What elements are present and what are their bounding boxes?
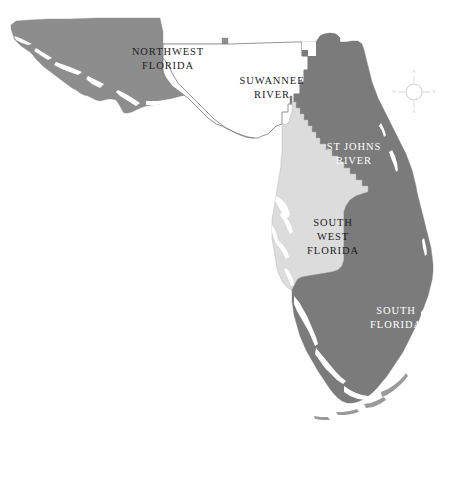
compass-rose: N S W E [392,69,436,114]
label-northwest-florida-line-2: FLORIDA [142,60,194,71]
key-west-tip [314,416,330,420]
label-suwannee-river-line-2: RIVER [254,89,290,100]
compass-label-west: W [392,89,397,94]
label-south-florida-line-1: SOUTH [376,305,416,316]
label-st-johns-river-line-1: ST JOHNS [327,141,382,152]
compass-label-east: E [433,89,436,94]
compass-label-north: N [412,69,416,74]
label-suwannee-river-line-1: SUWANNEE [240,75,305,86]
florida-map: NORTHWEST FLORIDA SUWANNEE RIVER ST JOHN… [0,0,463,477]
label-northwest-florida-line-1: NORTHWEST [132,46,204,57]
compass-label-south: S [413,109,416,114]
compass-ring [406,84,422,100]
label-south-west-florida-line-3: FLORIDA [307,245,359,256]
label-south-west-florida-line-1: SOUTH [313,217,353,228]
lower-keys [336,409,359,415]
figure-caption [6,468,436,477]
label-south-west-florida-line-2: WEST [317,231,349,242]
label-south-florida-line-2: FLORIDA [370,319,422,330]
florida-regions-figure: NORTHWEST FLORIDA SUWANNEE RIVER ST JOHN… [0,0,463,477]
label-st-johns-river-line-2: RIVER [336,155,372,166]
